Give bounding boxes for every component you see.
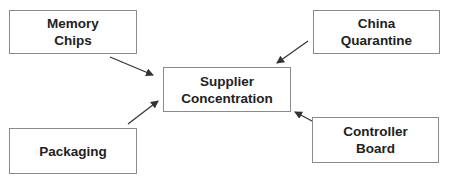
node-label: China Quarantine <box>341 15 412 49</box>
node-china-quarantine: China Quarantine <box>313 10 440 54</box>
node-packaging: Packaging <box>9 128 137 174</box>
node-label: Memory Chips <box>47 15 99 49</box>
node-label: Supplier Concentration <box>181 73 273 107</box>
arrow-memory-chips-to-supplier-concentration <box>110 57 153 75</box>
node-label: Packaging <box>39 143 107 160</box>
node-label: Controller Board <box>343 123 408 157</box>
node-supplier-concentration: Supplier Concentration <box>163 67 291 112</box>
node-controller-board: Controller Board <box>312 117 439 163</box>
arrow-packaging-to-supplier-concentration <box>128 101 158 124</box>
arrow-china-quarantine-to-supplier-concentration <box>277 41 308 63</box>
node-memory-chips: Memory Chips <box>9 10 137 54</box>
